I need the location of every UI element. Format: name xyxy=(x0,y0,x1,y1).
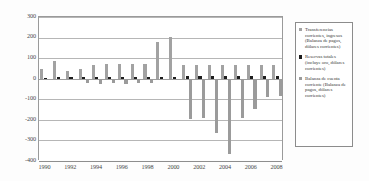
bar xyxy=(215,79,218,134)
bar xyxy=(163,79,166,80)
bar xyxy=(156,42,159,79)
legend-entry[interactable]: Reservas totales (incluye oro, dólares c… xyxy=(298,54,350,71)
x-tick-label: 2000 xyxy=(160,163,186,170)
bar xyxy=(57,77,60,79)
bar-group xyxy=(52,17,65,160)
x-tick-label: 1998 xyxy=(135,163,161,170)
bar-group xyxy=(39,17,52,160)
legend-label: Reservas totales (incluye oro, dólares c… xyxy=(305,54,344,70)
legend-swatch-icon xyxy=(299,77,302,80)
bar-group xyxy=(78,17,91,160)
bar xyxy=(44,78,47,79)
bar-group xyxy=(103,17,116,160)
bar-group xyxy=(207,17,220,160)
x-tick-label: 1996 xyxy=(109,163,135,170)
bar xyxy=(228,79,231,154)
x-tick-label: 1994 xyxy=(83,163,109,170)
y-tick-label: 0 xyxy=(10,75,36,81)
bar xyxy=(189,79,192,119)
y-tick-label: 300 xyxy=(10,13,36,19)
bar xyxy=(266,79,269,97)
y-tick-label: -200 xyxy=(10,116,36,122)
bar-group xyxy=(271,17,284,160)
y-tick-label: -300 xyxy=(10,136,36,142)
bar-group xyxy=(232,17,245,160)
bar-group xyxy=(91,17,104,160)
x-tick-label: 2002 xyxy=(186,163,212,170)
bar-group xyxy=(116,17,129,160)
bar-chart: 3002001000-100-200-300-400 1990199219941… xyxy=(0,0,369,181)
bar xyxy=(112,79,115,84)
bar-group xyxy=(245,17,258,160)
bar xyxy=(176,79,179,80)
bar-group xyxy=(65,17,78,160)
bar-group xyxy=(142,17,155,160)
legend-label: Balanza de cuenta corriente (Balanza de … xyxy=(305,76,346,98)
bar xyxy=(69,77,72,79)
bar xyxy=(169,37,172,79)
legend-label: Transferencias corrientes, ingresos (Bal… xyxy=(305,27,342,49)
x-axis-tick-labels: 1990199219941996199820002002200420062008 xyxy=(38,163,283,177)
bar-group xyxy=(129,17,142,160)
bar xyxy=(279,79,282,96)
bar-group xyxy=(194,17,207,160)
bar xyxy=(86,79,89,83)
bar xyxy=(253,79,256,109)
y-tick-label: 200 xyxy=(10,33,36,39)
chart-legend: Transferencias corrientes, ingresos (Bal… xyxy=(295,22,353,147)
bar-group xyxy=(220,17,233,160)
legend-swatch-icon xyxy=(299,55,302,58)
plot-area xyxy=(38,16,283,160)
legend-entry[interactable]: Transferencias corrientes, ingresos (Bal… xyxy=(298,27,350,49)
y-tick-label: -100 xyxy=(10,95,36,101)
bar xyxy=(124,79,127,84)
x-tick-label: 2004 xyxy=(212,163,238,170)
x-tick-label: 2006 xyxy=(238,163,264,170)
bar xyxy=(150,79,153,83)
x-tick-label: 1992 xyxy=(57,163,83,170)
bar xyxy=(241,79,244,118)
legend-swatch-icon xyxy=(299,28,302,31)
bar xyxy=(202,79,205,118)
bar-group xyxy=(155,17,168,160)
bar-group xyxy=(168,17,181,160)
y-tick-label: 100 xyxy=(10,54,36,60)
bar-group xyxy=(258,17,271,160)
x-tick-label: 2008 xyxy=(264,163,290,170)
bar xyxy=(99,79,102,84)
legend-entry[interactable]: Balanza de cuenta corriente (Balanza de … xyxy=(298,76,350,98)
bar-group xyxy=(181,17,194,160)
bar xyxy=(137,79,140,84)
x-tick-label: 1990 xyxy=(31,163,57,170)
gridline--400 xyxy=(39,161,282,162)
